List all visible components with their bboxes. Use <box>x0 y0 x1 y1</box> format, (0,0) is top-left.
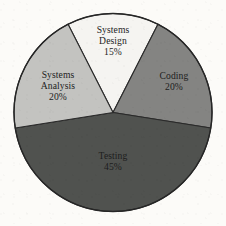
slice-label-systems-design: Systems Design 15% <box>73 24 153 58</box>
slice-value-coding: 20% <box>139 81 209 92</box>
slice-label-testing: Testing 45% <box>73 150 153 172</box>
slice-label-systems-design-line1: Systems <box>73 24 153 35</box>
slice-label-coding: Coding 20% <box>139 70 209 92</box>
slice-value-testing: 45% <box>73 161 153 172</box>
pie-chart: Systems Design 15% Coding 20% Testing 45… <box>0 0 226 226</box>
slice-label-systems-analysis-line2: Analysis <box>19 80 97 91</box>
slice-label-testing-line1: Testing <box>73 150 153 161</box>
slice-label-coding-line1: Coding <box>139 70 209 81</box>
slice-label-systems-analysis: Systems Analysis 20% <box>19 69 97 103</box>
slice-label-systems-design-line2: Design <box>73 35 153 46</box>
slice-label-systems-analysis-line1: Systems <box>19 69 97 80</box>
slice-value-systems-analysis: 20% <box>19 91 97 102</box>
slice-value-systems-design: 15% <box>73 46 153 57</box>
